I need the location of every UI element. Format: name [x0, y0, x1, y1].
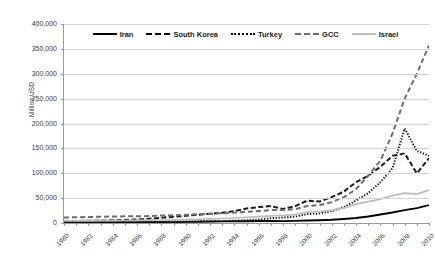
x-axis-tick-labels: 1980198219841986198819901992199419961998… [0, 226, 432, 261]
gridline [64, 24, 429, 25]
y-axis-tick [61, 99, 64, 100]
legend-item-south-korea[interactable]: South Korea [146, 30, 218, 39]
gridline [64, 198, 429, 199]
series-line-south-korea [64, 153, 429, 221]
legend-item-israel[interactable]: Israel [352, 30, 399, 39]
y-tick-label: 300,000 [5, 70, 57, 78]
series-line-gcc [64, 45, 429, 217]
gridline [64, 74, 429, 75]
legend-swatch-icon [295, 33, 319, 35]
y-axis-tick [61, 49, 64, 50]
y-axis-tick [61, 74, 64, 75]
legend-swatch-icon [146, 33, 170, 35]
legend-item-iran[interactable]: Iran [93, 30, 134, 39]
y-tick-label: 350,000 [5, 45, 57, 53]
y-axis-tick [61, 173, 64, 174]
gridline [64, 49, 429, 50]
gridline [64, 148, 429, 149]
y-tick-label: 100,000 [5, 169, 57, 177]
y-tick-label: 200,000 [5, 120, 57, 128]
y-tick-label: 150,000 [5, 144, 57, 152]
y-axis-tick [61, 223, 64, 224]
y-tick-label: 400,000 [5, 20, 57, 28]
legend-label: Iran [120, 30, 134, 39]
y-tick-label: 250,000 [5, 95, 57, 103]
legend-label: GCC [322, 30, 339, 39]
y-axis-tick-labels: 400,000350,000300,000250,000200,000150,0… [0, 0, 57, 261]
y-axis-tick [61, 124, 64, 125]
plot-area [63, 24, 429, 224]
legend-item-gcc[interactable]: GCC [295, 30, 339, 39]
chart-legend: IranSouth KoreaTurkeyGCCIsrael [63, 26, 428, 42]
y-axis-tick [61, 198, 64, 199]
legend-item-turkey[interactable]: Turkey [231, 30, 282, 39]
gridline [64, 124, 429, 125]
gridline [64, 99, 429, 100]
y-axis-tick [61, 24, 64, 25]
gridline [64, 173, 429, 174]
legend-swatch-icon [352, 33, 376, 35]
legend-swatch-icon [231, 33, 255, 35]
legend-label: Turkey [258, 30, 282, 39]
y-axis-tick [61, 148, 64, 149]
y-tick-label: 50,000 [5, 194, 57, 202]
legend-label: South Korea [173, 30, 218, 39]
legend-swatch-icon [93, 33, 117, 35]
legend-label: Israel [379, 30, 399, 39]
